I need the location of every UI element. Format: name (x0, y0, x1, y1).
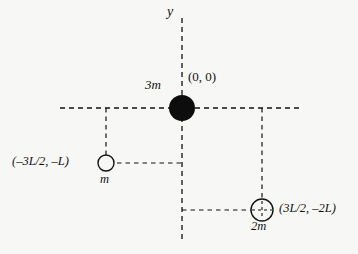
diagram-canvas (0, 0, 358, 254)
coordinate-label-m: (–3L/2, –L) (12, 155, 69, 168)
coordinate-label-origin: (0, 0) (188, 70, 216, 83)
mass-label-m: m (100, 173, 109, 186)
y-axis-label: y (167, 5, 173, 19)
mass-marker-3m (169, 95, 195, 121)
physics-diagram: y 3m (0, 0) (–3L/2, –L) m (3L/2, –2L) 2m (0, 0, 358, 254)
coordinate-label-2m: (3L/2, –2L) (279, 202, 336, 215)
mass-marker-m (98, 155, 114, 171)
mass-label-2m: 2m (251, 220, 266, 233)
mass-label-3m: 3m (145, 78, 161, 91)
